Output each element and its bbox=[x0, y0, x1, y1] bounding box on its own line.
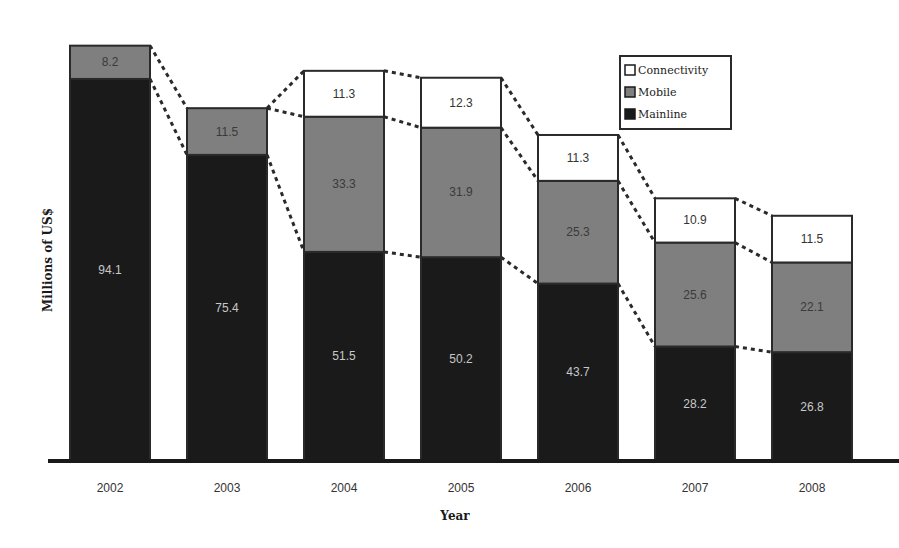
bar-value-label: 11.5 bbox=[216, 125, 239, 139]
connector-line bbox=[735, 198, 772, 215]
legend-label-mainline: Mainline bbox=[638, 108, 687, 121]
bar-value-label: 11.3 bbox=[333, 87, 356, 101]
connector-line bbox=[735, 347, 772, 353]
bar-value-label: 75.4 bbox=[215, 301, 239, 315]
x-tick-label: 2002 bbox=[97, 481, 124, 495]
bar-value-label: 25.3 bbox=[566, 225, 590, 239]
x-tick-labels: 2002200320042005200620072008 bbox=[97, 481, 826, 495]
svg-text:Millions of US$: Millions of US$ bbox=[41, 208, 55, 312]
chart-canvas: 94.18.275.411.551.533.311.350.231.912.34… bbox=[0, 0, 899, 548]
connector-line bbox=[267, 155, 304, 252]
connector-line bbox=[384, 252, 421, 257]
legend-swatch-connectivity bbox=[625, 65, 635, 75]
bar-value-label: 51.5 bbox=[332, 349, 356, 363]
bar-stack-2003: 75.411.5 bbox=[187, 108, 267, 461]
bar-stack-2007: 28.225.610.9 bbox=[655, 198, 735, 461]
connector-line bbox=[618, 284, 655, 347]
bar-value-label: 26.8 bbox=[800, 400, 824, 414]
bar-stack-2005: 50.231.912.3 bbox=[421, 78, 501, 461]
legend-label-mobile: Mobile bbox=[638, 86, 676, 99]
bar-value-label: 33.3 bbox=[332, 177, 356, 191]
connector-line bbox=[501, 78, 538, 135]
bar-group: 94.18.275.411.551.533.311.350.231.912.34… bbox=[70, 46, 852, 461]
x-tick-label: 2003 bbox=[214, 481, 241, 495]
connector-line bbox=[501, 128, 538, 181]
legend-swatch-mobile bbox=[625, 87, 635, 97]
bar-value-label: 22.1 bbox=[800, 300, 824, 314]
bar-value-label: 94.1 bbox=[98, 263, 122, 277]
x-tick-label: 2005 bbox=[448, 481, 475, 495]
x-tick-label: 2006 bbox=[565, 481, 592, 495]
connector-line bbox=[384, 71, 421, 78]
connector-line bbox=[150, 79, 187, 155]
bar-value-label: 10.9 bbox=[683, 213, 707, 227]
bar-stack-2004: 51.533.311.3 bbox=[304, 71, 384, 461]
y-axis-title: Millions of US$ bbox=[8, 200, 88, 320]
legend-swatch-mainline bbox=[625, 109, 635, 119]
bar-value-label: 11.3 bbox=[567, 151, 590, 165]
bar-value-label: 50.2 bbox=[449, 352, 473, 366]
connector-line bbox=[384, 117, 421, 128]
bar-value-label: 25.6 bbox=[683, 288, 707, 302]
connector-line bbox=[618, 181, 655, 243]
connector-line bbox=[267, 71, 304, 108]
x-tick-label: 2007 bbox=[682, 481, 709, 495]
bar-stack-2006: 43.725.311.3 bbox=[538, 135, 618, 461]
bar-value-label: 43.7 bbox=[566, 365, 590, 379]
stacked-bar-chart: 94.18.275.411.551.533.311.350.231.912.34… bbox=[0, 0, 899, 548]
x-tick-label: 2008 bbox=[799, 481, 826, 495]
bar-stack-2008: 26.822.111.5 bbox=[772, 216, 852, 461]
x-axis-title: Year bbox=[439, 509, 470, 523]
legend-label-connectivity: Connectivity bbox=[638, 64, 709, 77]
connector-line bbox=[150, 46, 187, 109]
connector-line bbox=[735, 243, 772, 263]
bar-value-label: 12.3 bbox=[449, 96, 473, 110]
connector-line bbox=[501, 257, 538, 283]
legend: ConnectivityMobileMainline bbox=[620, 56, 731, 129]
connector-line bbox=[267, 108, 304, 117]
bar-value-label: 8.2 bbox=[102, 55, 119, 69]
x-tick-label: 2004 bbox=[331, 481, 358, 495]
bar-value-label: 31.9 bbox=[449, 185, 473, 199]
bar-value-label: 11.5 bbox=[801, 232, 824, 246]
bar-value-label: 28.2 bbox=[683, 397, 707, 411]
